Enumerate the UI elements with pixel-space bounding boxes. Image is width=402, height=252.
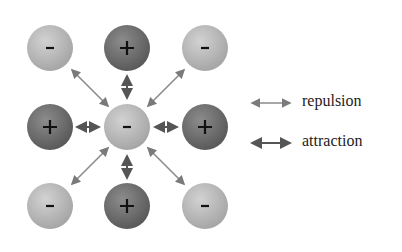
anion [104,104,150,150]
anion [182,183,228,229]
cation [27,104,73,150]
anion [27,183,73,229]
cation [182,104,228,150]
cation [104,183,150,229]
ions [27,25,228,229]
legend-repulsion-label: repulsion [302,92,362,110]
ionic-lattice-diagram [0,0,402,252]
cation [104,25,150,71]
legend-attraction-label: attraction [302,132,362,150]
anion [27,25,73,71]
anion [182,25,228,71]
